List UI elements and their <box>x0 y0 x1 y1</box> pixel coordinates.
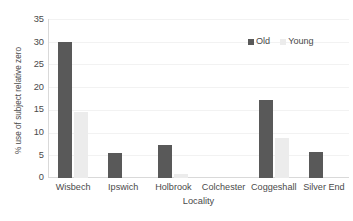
bar-group-wisbech <box>48 19 98 178</box>
legend-swatch-icon <box>280 39 286 45</box>
x-axis-title: Locality <box>48 196 349 206</box>
y-tick-label: 25 <box>34 60 44 69</box>
bar-old[interactable] <box>108 153 122 178</box>
bar-old[interactable] <box>58 42 72 178</box>
bar-old[interactable] <box>158 145 172 178</box>
y-axis-tick-labels: 35 30 25 20 15 10 5 0 <box>22 0 44 221</box>
x-tick-label: Colchester <box>199 180 249 196</box>
legend-entry-young[interactable]: Young <box>280 37 313 46</box>
bar-group-colchester <box>199 19 249 178</box>
x-axis-tick-labels: Wisbech Ipswich Holbrook Colchester Cogg… <box>48 180 349 196</box>
x-tick-label: Coggeshall <box>249 180 299 196</box>
x-tick-label: Silver End <box>299 180 349 196</box>
chart-legend: Old Young <box>248 37 314 46</box>
legend-entry-old[interactable]: Old <box>248 37 270 46</box>
x-tick-label: Wisbech <box>48 180 98 196</box>
y-tick-label: 35 <box>34 15 44 24</box>
x-tick-label: Ipswich <box>98 180 148 196</box>
y-tick-label: 30 <box>34 38 44 47</box>
y-tick-label: 15 <box>34 105 44 114</box>
bar-chart: % use of subject relative zero 35 30 25 … <box>0 0 353 221</box>
y-tick-label: 5 <box>39 151 44 160</box>
legend-label: Old <box>256 37 270 46</box>
bar-group-ipswich <box>98 19 148 178</box>
bar-young[interactable] <box>74 112 88 178</box>
x-tick-label: Holbrook <box>148 180 198 196</box>
legend-label: Young <box>288 37 313 46</box>
legend-swatch-icon <box>248 39 254 45</box>
y-tick-label: 0 <box>39 173 44 182</box>
y-tick-label: 10 <box>34 128 44 137</box>
bar-old[interactable] <box>309 152 323 178</box>
bar-old[interactable] <box>259 100 273 178</box>
y-tick-label: 20 <box>34 83 44 92</box>
bar-young[interactable] <box>275 138 289 178</box>
bar-young[interactable] <box>174 174 188 178</box>
bar-group-holbrook <box>148 19 198 178</box>
